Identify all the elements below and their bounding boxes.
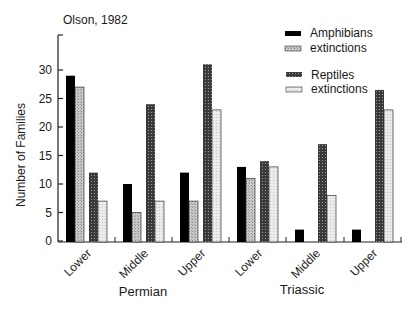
bar-extinctions-reptiles-middle [327,195,336,242]
bar-amphibians-middle [123,184,132,242]
legend-swatch-amphibians [285,31,301,36]
category-label: Lower [232,246,265,279]
bar-reptiles-upper [375,90,384,242]
y-tick-label: 0 [45,234,52,248]
bar-extinctions-amphibians-upper [189,201,198,242]
bar-chart: Olson, 1982 Number of Families 051015202… [0,0,417,312]
category-label: Lower [61,246,94,279]
bar-amphibians-upper [180,173,189,242]
bar-amphibians-upper [352,230,361,242]
x-axis [58,237,402,242]
y-tick-label: 30 [39,63,53,77]
category-label: Upper [347,246,380,279]
bar-extinctions-reptiles-upper [212,110,221,242]
category-label: Middle [288,246,323,281]
y-tick-label: 10 [39,177,53,191]
legend-swatch-amphibian-extinctions [285,46,301,51]
y-tick-label: 15 [39,149,53,163]
y-axis: 051015202530 [39,35,63,248]
period-label-triassic: Triassic [280,282,325,297]
bar-extinctions-reptiles-lower [269,167,278,242]
bar-extinctions-amphibians-lower [75,87,84,242]
bar-amphibians-lower [237,167,246,242]
bar-amphibians-lower [66,76,75,242]
svg-text:Reptiles: Reptiles [311,68,354,82]
category-labels: LowerMiddleUpperLowerMiddleUpper [61,246,380,281]
legend-item-amphibian-extinctions: extinctions [285,41,367,55]
period-label-permian: Permian [119,284,167,299]
bar-reptiles-upper [203,64,212,242]
bar-reptiles-lower [260,161,269,242]
legend-item-reptile-extinctions: extinctions [286,82,368,96]
legend-item-amphibians: Amphibians [285,26,373,40]
chart-title: Olson, 1982 [63,13,128,27]
category-label: Upper [175,246,208,279]
legend-item-reptiles: Reptiles [286,68,354,82]
svg-text:extinctions: extinctions [310,41,367,55]
bar-extinctions-reptiles-upper [384,110,393,242]
y-axis-label: Number of Families [14,103,28,207]
y-tick-label: 20 [39,120,53,134]
y-tick-label: 5 [45,206,52,220]
legend: Amphibians extinctions Reptiles extincti… [285,26,373,96]
svg-text:Amphibians: Amphibians [310,26,373,40]
bar-reptiles-middle [146,104,155,242]
y-tick-label: 25 [39,92,53,106]
bar-extinctions-reptiles-middle [155,201,164,242]
bar-reptiles-lower [89,173,98,242]
svg-text:extinctions: extinctions [311,82,368,96]
category-label: Middle [116,246,151,281]
bar-amphibians-middle [295,230,304,242]
bar-extinctions-reptiles-lower [98,201,107,242]
bar-reptiles-middle [318,144,327,242]
bar-extinctions-amphibians-lower [246,178,255,242]
legend-swatch-reptiles [286,72,302,77]
legend-swatch-reptile-extinctions [286,87,302,92]
bar-extinctions-amphibians-middle [132,213,141,243]
